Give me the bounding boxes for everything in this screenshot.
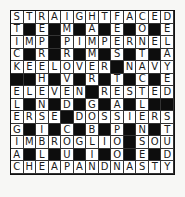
letter-cell[interactable]: M <box>24 136 37 149</box>
letter-cell[interactable]: A <box>74 161 87 174</box>
letter-cell[interactable]: P <box>61 36 74 49</box>
letter-cell[interactable]: E <box>11 86 24 99</box>
letter-cell[interactable]: R <box>149 111 162 124</box>
letter-cell[interactable]: M <box>86 49 99 62</box>
letter-cell[interactable]: E <box>149 11 162 24</box>
letter-cell[interactable]: G <box>74 11 87 24</box>
letter-cell[interactable]: O <box>111 136 124 149</box>
letter-cell[interactable]: E <box>61 86 74 99</box>
letter-cell[interactable]: E <box>24 61 37 74</box>
letter-cell[interactable]: Y <box>161 161 174 174</box>
letter-cell[interactable]: B <box>36 136 49 149</box>
letter-cell[interactable]: R <box>99 86 112 99</box>
letter-cell[interactable]: G <box>86 99 99 112</box>
letter-cell[interactable]: C <box>136 74 149 87</box>
letter-cell[interactable]: R <box>124 36 137 49</box>
letter-cell[interactable]: P <box>111 124 124 137</box>
letter-cell[interactable]: E <box>161 24 174 37</box>
letter-cell[interactable]: G <box>11 124 24 137</box>
letter-cell[interactable]: I <box>86 149 99 162</box>
letter-cell[interactable]: O <box>86 111 99 124</box>
letter-cell[interactable]: A <box>136 61 149 74</box>
letter-cell[interactable]: G <box>74 136 87 149</box>
letter-cell[interactable]: N <box>111 161 124 174</box>
letter-cell[interactable]: R <box>86 74 99 87</box>
letter-cell[interactable]: D <box>99 161 112 174</box>
letter-cell[interactable]: S <box>111 111 124 124</box>
letter-cell[interactable]: U <box>61 149 74 162</box>
letter-cell[interactable]: T <box>111 74 124 87</box>
letter-cell[interactable]: U <box>161 136 174 149</box>
letter-cell[interactable]: L <box>86 136 99 149</box>
letter-cell[interactable]: A <box>111 99 124 112</box>
letter-cell[interactable]: V <box>74 61 87 74</box>
letter-cell[interactable]: D <box>161 11 174 24</box>
letter-cell[interactable]: O <box>149 136 162 149</box>
letter-cell[interactable]: L <box>24 86 37 99</box>
letter-cell[interactable]: I <box>11 36 24 49</box>
letter-cell[interactable]: C <box>136 11 149 24</box>
letter-cell[interactable]: A <box>161 49 174 62</box>
letter-cell[interactable]: I <box>11 136 24 149</box>
letter-cell[interactable]: E <box>11 111 24 124</box>
letter-cell[interactable]: E <box>149 86 162 99</box>
letter-cell[interactable]: H <box>86 11 99 24</box>
letter-cell[interactable]: I <box>61 11 74 24</box>
letter-cell[interactable]: S <box>36 111 49 124</box>
letter-cell[interactable]: E <box>136 111 149 124</box>
letter-cell[interactable]: P <box>36 36 49 49</box>
letter-cell[interactable]: T <box>136 86 149 99</box>
letter-cell[interactable]: D <box>161 149 174 162</box>
letter-cell[interactable]: M <box>24 36 37 49</box>
letter-cell[interactable]: R <box>61 49 74 62</box>
letter-cell[interactable]: L <box>36 149 49 162</box>
letter-cell[interactable]: S <box>161 111 174 124</box>
letter-cell[interactable]: S <box>124 86 137 99</box>
letter-cell[interactable]: D <box>161 86 174 99</box>
letter-cell[interactable]: R <box>36 49 49 62</box>
letter-cell[interactable]: O <box>61 61 74 74</box>
letter-cell[interactable]: O <box>61 136 74 149</box>
letter-cell[interactable]: S <box>136 161 149 174</box>
letter-cell[interactable]: E <box>111 36 124 49</box>
letter-cell[interactable]: R <box>24 111 37 124</box>
letter-cell[interactable]: E <box>111 24 124 37</box>
letter-cell[interactable]: A <box>49 11 62 24</box>
letter-cell[interactable]: P <box>99 36 112 49</box>
letter-cell[interactable]: S <box>111 49 124 62</box>
letter-cell[interactable]: S <box>11 11 24 24</box>
letter-cell[interactable]: E <box>36 24 49 37</box>
letter-cell[interactable]: E <box>49 111 62 124</box>
letter-cell[interactable]: P <box>61 161 74 174</box>
letter-cell[interactable]: E <box>86 61 99 74</box>
letter-cell[interactable]: I <box>124 111 137 124</box>
letter-cell[interactable]: T <box>161 124 174 137</box>
letter-cell[interactable]: R <box>49 136 62 149</box>
letter-cell[interactable]: T <box>149 161 162 174</box>
letter-cell[interactable]: A <box>86 24 99 37</box>
letter-cell[interactable]: K <box>11 61 24 74</box>
letter-cell[interactable]: A <box>124 11 137 24</box>
letter-cell[interactable]: M <box>86 36 99 49</box>
letter-cell[interactable]: V <box>149 61 162 74</box>
letter-cell[interactable]: L <box>161 36 174 49</box>
letter-cell[interactable]: E <box>136 149 149 162</box>
letter-cell[interactable]: C <box>11 161 24 174</box>
letter-cell[interactable]: L <box>49 61 62 74</box>
letter-cell[interactable]: N <box>74 86 87 99</box>
letter-cell[interactable]: R <box>99 61 112 74</box>
letter-cell[interactable]: E <box>111 86 124 99</box>
letter-cell[interactable]: H <box>36 74 49 87</box>
letter-cell[interactable]: O <box>111 149 124 162</box>
letter-cell[interactable]: V <box>61 74 74 87</box>
letter-cell[interactable]: H <box>24 161 37 174</box>
letter-cell[interactable]: L <box>136 99 149 112</box>
letter-cell[interactable]: A <box>49 161 62 174</box>
letter-cell[interactable]: S <box>136 136 149 149</box>
letter-cell[interactable]: N <box>124 61 137 74</box>
letter-cell[interactable]: T <box>136 49 149 62</box>
letter-cell[interactable]: E <box>161 74 174 87</box>
letter-cell[interactable]: D <box>74 111 87 124</box>
letter-cell[interactable]: S <box>99 111 112 124</box>
letter-cell[interactable]: B <box>86 124 99 137</box>
